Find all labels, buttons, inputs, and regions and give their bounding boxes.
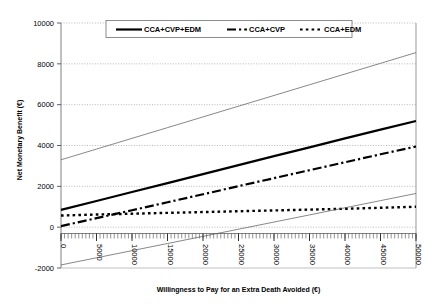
plot-area-background — [61, 23, 416, 233]
x-tick-label: 35000 — [308, 244, 317, 265]
y-tick-label: 8000 — [37, 60, 54, 69]
x-axis-title: Willingness to Pay for an Extra Death Av… — [157, 286, 321, 294]
x-tick-label: 45000 — [379, 244, 388, 265]
x-tick-label: 40000 — [343, 244, 352, 265]
legend-label-cca-edm: CCA+EDM — [324, 25, 361, 34]
net-monetary-benefit-line-chart: -20000200040006000800010000 050001000015… — [0, 0, 441, 307]
y-tick-label: 6000 — [37, 100, 54, 109]
x-axis-ticks: 0500010000150002000025000300003500040000… — [59, 234, 423, 265]
legend-label-cca-cvp: CCA+CVP — [249, 25, 285, 34]
x-tick-label: 10000 — [130, 244, 139, 265]
chart-container: -20000200040006000800010000 050001000015… — [0, 0, 441, 307]
x-tick-label: 25000 — [237, 244, 246, 265]
y-axis-title: Net Monetary Benefit (€) — [16, 100, 24, 181]
y-axis-ticks: -20000200040006000800010000 — [33, 19, 61, 273]
legend-label-cca-cvp-edm: CCA+CVP+EDM — [144, 25, 201, 34]
chart-legend: CCA+CVP+EDMCCA+CVPCCA+EDM — [106, 21, 361, 38]
x-tick-label: 0 — [59, 244, 68, 248]
y-tick-label: 10000 — [33, 19, 54, 28]
y-tick-label: 0 — [50, 223, 54, 232]
y-tick-label: -2000 — [35, 264, 54, 273]
x-tick-label: 50000 — [414, 244, 423, 265]
y-tick-label: 4000 — [37, 141, 54, 150]
y-tick-label: 2000 — [37, 182, 54, 191]
x-tick-label: 15000 — [166, 244, 175, 265]
x-tick-label: 30000 — [272, 244, 281, 265]
x-tick-label: 20000 — [201, 244, 210, 265]
